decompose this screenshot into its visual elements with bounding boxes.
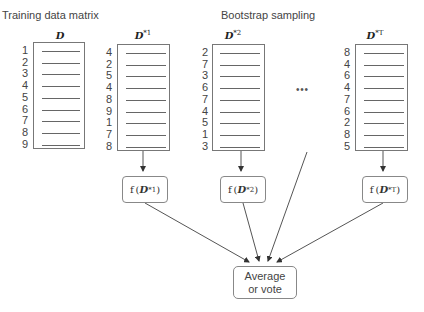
arrow-ellipsis-to-aggregate — [268, 152, 307, 261]
arrow-f1-to-aggregate — [145, 203, 249, 262]
model-box-f2: f (D*2) — [220, 176, 266, 203]
arrow-fT-to-aggregate — [277, 203, 383, 262]
aggregate-line-1: Average — [245, 270, 286, 283]
aggregate-line-2: or vote — [248, 283, 282, 296]
model-box-f1: f (D*1) — [122, 176, 168, 203]
model-box-fT: f (D*T) — [362, 176, 408, 203]
connector-lines — [0, 0, 424, 312]
arrow-f2-to-aggregate — [243, 203, 259, 261]
average-or-vote-box: Average or vote — [233, 266, 297, 299]
